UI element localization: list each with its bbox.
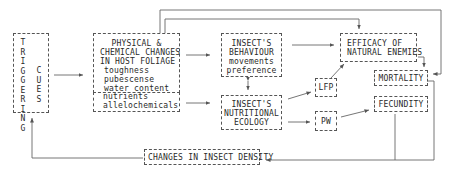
behaviour-title-2: BEHAVIOUR [222, 48, 281, 57]
efficacy-title-2: NATURAL ENEMIES [347, 48, 422, 57]
mortality-box: MORTALITY [374, 70, 428, 86]
arrow-density-to-cues [32, 118, 143, 158]
arrow-physical-to-efficacy [165, 19, 359, 33]
mortality-label: MORTALITY [375, 74, 427, 83]
arrow-pw-to-fecundity [341, 110, 369, 117]
physical-item-toughness: toughness [104, 66, 149, 75]
physical-chemical-box-lower [93, 92, 180, 112]
nutritional-title-2: NUTRITIONAL [222, 109, 281, 118]
triggering-cues-box: T R I G G E R I N G C U E S [13, 33, 49, 113]
nutritional-title-3: ECOLOGY [222, 118, 281, 127]
physical-item-pubescense: pubescense [104, 75, 154, 84]
efficacy-title-1: EFFICACY OF [347, 39, 402, 48]
physical-title-3: IN HOST FOLIAGE [100, 57, 175, 66]
efficacy-box: EFFICACY OF NATURAL ENEMIES [340, 33, 417, 62]
density-label: CHANGES IN INSECT DENSITY [148, 153, 273, 162]
arrow-nutritional-to-lfp [288, 92, 311, 99]
lfp-box: LFP [315, 78, 337, 97]
physical-chemical-box: PHYSICAL & CHEMICAL CHANGES IN HOST FOLI… [93, 33, 180, 93]
connector-lines [0, 0, 451, 174]
lfp-label: LFP [316, 83, 336, 92]
behaviour-item-movements: movements [222, 57, 281, 66]
arrow-mortality-to-density [266, 81, 434, 160]
physical-title-2: CHEMICAL CHANGES [100, 48, 180, 57]
nutritional-title-1: INSECT'S [222, 100, 281, 109]
physical-title-1: PHYSICAL & [94, 39, 179, 48]
behaviour-item-preference: preference [222, 66, 281, 75]
fecundity-box: FECUNDITY [374, 96, 428, 112]
pw-label: PW [316, 117, 336, 126]
behaviour-box: INSECT'S BEHAVIOUR movements preference [221, 33, 282, 77]
behaviour-title-1: INSECT'S [222, 39, 281, 48]
nutritional-ecology-box: INSECT'S NUTRITIONAL ECOLOGY [221, 95, 282, 130]
arrow-efficacy-to-mortality [418, 57, 424, 67]
fecundity-label: FECUNDITY [375, 100, 427, 109]
cues-label: C U E S [34, 66, 44, 104]
arrow-lfp-to-efficacy [331, 64, 344, 78]
triggering-label: T R I G G E R I N G [18, 38, 28, 133]
pw-box: PW [315, 111, 337, 131]
insect-density-box: CHANGES IN INSECT DENSITY [144, 149, 260, 165]
